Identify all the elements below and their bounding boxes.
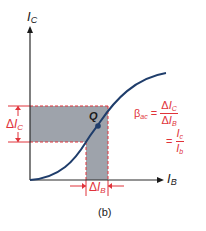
- beta-ac-formula: βac = ΔIC ΔIB: [134, 100, 178, 128]
- y-axis-label: IC: [27, 10, 37, 25]
- q-point-marker: [95, 123, 101, 129]
- x-axis-arrow-icon: [157, 177, 164, 183]
- delta-ib-shaded-band: [86, 142, 108, 180]
- figure-caption: (b): [98, 207, 111, 218]
- ic-over-ib-formula: = Ic Ib: [166, 128, 184, 156]
- delta-fraction: ΔIC ΔIB: [160, 100, 177, 128]
- delta-ic-label: ΔIC: [6, 118, 23, 132]
- y-axis-arrow-icon: [27, 26, 33, 33]
- q-point-label: Q: [89, 111, 98, 122]
- ic-ib-fraction: Ic Ib: [176, 128, 185, 156]
- x-axis-label: IB: [167, 172, 177, 187]
- delta-ib-label: ΔIB: [89, 181, 106, 195]
